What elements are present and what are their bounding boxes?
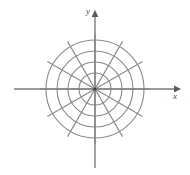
origin-point [93, 87, 96, 90]
polar-grid-figure: x y [0, 0, 190, 175]
y-axis-arrow-icon [92, 10, 99, 17]
x-axis-label: x [172, 91, 177, 101]
y-axis-label: y [85, 6, 90, 16]
polar-grid-canvas: x y [0, 0, 190, 175]
axes-group [14, 10, 181, 168]
